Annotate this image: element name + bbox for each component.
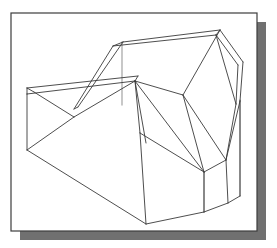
picture-frame	[11, 13, 257, 231]
wireframe-figure	[0, 0, 277, 248]
figure-root	[0, 0, 277, 248]
